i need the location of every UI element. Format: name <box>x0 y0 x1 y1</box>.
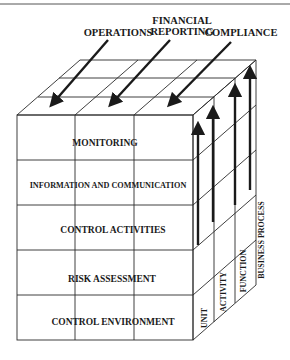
unit-label-activity: ACTIVITY <box>219 272 228 312</box>
coso-cube-diagram: OPERATIONS FINANCIAL REPORTING COMPLIANC… <box>0 0 290 360</box>
unit-label-business-process: BUSINESS PROCESS <box>257 201 266 279</box>
objective-financial-line1: FINANCIAL <box>152 15 212 26</box>
component-control-activities: CONTROL ACTIVITIES <box>60 225 165 235</box>
objective-labels: OPERATIONS FINANCIAL REPORTING COMPLIANC… <box>84 15 278 38</box>
unit-arrows <box>198 72 250 245</box>
top-face <box>17 60 256 115</box>
compliance-arrow <box>172 42 231 102</box>
component-control-environment: CONTROL ENVIRONMENT <box>51 317 175 327</box>
component-labels: MONITORING INFORMATION AND COMMUNICATION… <box>30 138 187 327</box>
unit-labels: UNIT ACTIVITY FUNCTION BUSINESS PROCESS <box>200 201 266 328</box>
component-monitoring: MONITORING <box>72 138 138 148</box>
unit-label-function: FUNCTION <box>239 249 248 292</box>
objective-arrows <box>54 40 231 102</box>
financial-reporting-arrow <box>113 40 170 102</box>
component-risk-assessment: RISK ASSESSMENT <box>68 274 157 284</box>
unit-label-unit: UNIT <box>200 307 209 328</box>
objective-operations: OPERATIONS <box>84 27 153 38</box>
objective-compliance: COMPLIANCE <box>205 27 278 38</box>
component-information-communication: INFORMATION AND COMMUNICATION <box>30 181 187 190</box>
